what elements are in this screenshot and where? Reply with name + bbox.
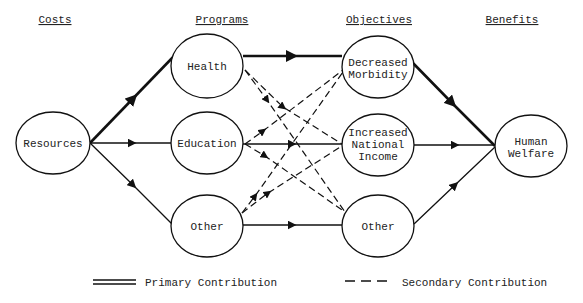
node-income-line1: Increased (348, 127, 407, 139)
edge-resources-health (90, 54, 176, 143)
normal-edges (90, 143, 495, 225)
legend-primary: Primary Contribution (93, 277, 277, 289)
header-benefits: Benefits (486, 14, 539, 26)
header-costs: Costs (38, 14, 71, 26)
node-morbidity-line1: Decreased (348, 57, 407, 69)
edge-education-morbidity (245, 70, 343, 144)
node-other-objective: Other (342, 195, 414, 257)
cost-benefit-flow-diagram: Costs Programs Objectives Benefits Resou… (0, 0, 583, 303)
legend-secondary-label: Secondary Contribution (402, 277, 547, 289)
legend: Primary Contribution Secondary Contribut… (93, 277, 547, 289)
edge-other-objective-welfare (414, 147, 495, 224)
node-income-line2: National (352, 139, 405, 151)
node-resources-label: Resources (23, 138, 82, 150)
edge-health-other-objective (245, 70, 345, 212)
header-programs: Programs (196, 14, 249, 26)
node-welfare-line2: Welfare (508, 148, 554, 160)
secondary-edges (242, 70, 345, 213)
node-other-objective-label: Other (361, 221, 394, 233)
primary-edges (90, 54, 495, 146)
node-health-label: Health (187, 61, 227, 73)
node-health: Health (171, 34, 243, 98)
node-welfare-line1: Human (514, 136, 547, 148)
edge-other-program-income (242, 146, 342, 213)
header-objectives: Objectives (346, 14, 412, 26)
node-income-line3: Income (358, 151, 398, 163)
node-education: Education (171, 112, 243, 174)
node-human-welfare: Human Welfare (495, 115, 567, 177)
node-resources: Resources (16, 112, 90, 174)
edge-morbidity-welfare (410, 60, 495, 146)
node-decreased-morbidity: Decreased Morbidity (342, 36, 414, 98)
node-increased-national-income: Increased National Income (342, 114, 414, 176)
edge-resources-other-program (90, 143, 173, 225)
node-other-program-label: Other (190, 221, 223, 233)
node-education-label: Education (177, 138, 236, 150)
legend-primary-label: Primary Contribution (145, 277, 277, 289)
edge-other-program-morbidity (242, 72, 343, 213)
legend-secondary: Secondary Contribution (345, 277, 547, 289)
node-morbidity-line2: Morbidity (348, 69, 408, 81)
node-other-program: Other (171, 195, 243, 257)
